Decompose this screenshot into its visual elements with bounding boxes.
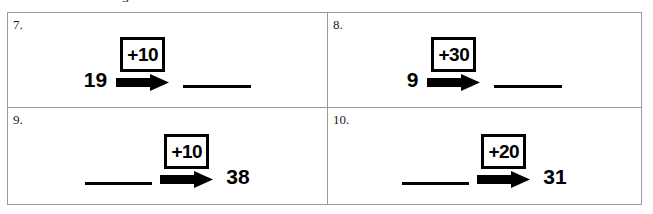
operator-label: +10: [127, 45, 158, 64]
problem-cell-8: 8. 9 +30: [327, 13, 641, 107]
item-number: 10.: [333, 113, 349, 126]
operator-machine: +20: [477, 134, 530, 188]
problem-cell-10: 10. +20 31: [327, 107, 641, 204]
start-blank-line[interactable]: [402, 182, 469, 185]
problem-cell-7: 7. 19 +10: [8, 13, 327, 107]
right-arrow-icon: [477, 171, 530, 188]
operator-label: +10: [171, 142, 202, 161]
operator-label: +30: [438, 45, 469, 64]
item-number: 8.: [333, 18, 343, 31]
operator-box: +20: [481, 134, 526, 169]
operator-box: +30: [431, 37, 476, 72]
worksheet-problem-grid: 7. 19 +10 8. 9 +30: [7, 12, 642, 205]
right-arrow-icon: [116, 74, 169, 91]
start-number: 19: [84, 69, 107, 91]
answer-blank-line[interactable]: [183, 85, 251, 88]
cut-off-heading-text: use when counting to solve.: [14, 0, 344, 2]
start-blank-line[interactable]: [85, 182, 152, 185]
answer-blank-line[interactable]: [494, 85, 562, 88]
item-number: 9.: [13, 113, 23, 126]
operator-box: +10: [120, 37, 165, 72]
operator-box: +10: [164, 134, 209, 169]
number-machine-row: +20 31: [328, 134, 641, 188]
operator-machine: +30: [427, 37, 480, 91]
number-machine-row: +10 38: [8, 134, 327, 188]
right-arrow-icon: [160, 171, 213, 188]
result-number: 31: [543, 166, 566, 188]
operator-machine: +10: [160, 134, 213, 188]
problem-cell-9: 9. +10 38: [8, 107, 327, 204]
number-machine-row: 9 +30: [328, 37, 641, 91]
operator-machine: +10: [116, 37, 169, 91]
item-number: 7.: [13, 18, 23, 31]
operator-label: +20: [488, 142, 519, 161]
start-number: 9: [407, 69, 419, 91]
result-number: 38: [226, 166, 249, 188]
number-machine-row: 19 +10: [8, 37, 327, 91]
right-arrow-icon: [427, 74, 480, 91]
